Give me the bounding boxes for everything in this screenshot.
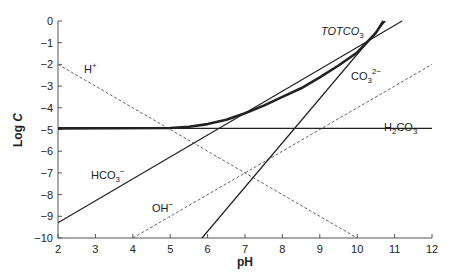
x-tick-label: 8: [279, 243, 285, 255]
label-totco3: TOTCO3: [321, 25, 364, 40]
x-ticks: 23456789101112: [55, 234, 438, 255]
y-tick-label: −5: [40, 124, 53, 136]
y-tick-label: −4: [40, 102, 53, 114]
y-axis-title: Log C: [11, 113, 25, 147]
x-tick-label: 10: [351, 243, 363, 255]
x-tick-label: 5: [167, 243, 173, 255]
x-axis-title: pH: [237, 255, 253, 269]
y-tick-label: −9: [40, 210, 53, 222]
y-tick-label: −1: [40, 37, 53, 49]
y-tick-label: −6: [40, 145, 53, 157]
y-tick-label: 0: [47, 15, 53, 27]
label-h2co3: H2CO3: [384, 121, 418, 136]
y-tick-label: −2: [40, 58, 53, 70]
label-h-plus: H+: [84, 61, 97, 75]
x-tick-label: 7: [242, 243, 248, 255]
label-hco3: HCO3−: [91, 167, 125, 184]
y-tick-label: −7: [40, 167, 53, 179]
y-tick-label: −8: [40, 189, 53, 201]
x-tick-label: 4: [130, 243, 136, 255]
x-tick-label: 11: [389, 243, 400, 255]
y-tick-label: −10: [34, 232, 53, 244]
log-c-ph-chart: 0−1−2−3−4−5−6−7−8−9−10 23456789101112 pH…: [0, 0, 452, 280]
x-tick-label: 2: [55, 243, 61, 255]
series-hco3-: [58, 21, 402, 223]
label-oh-minus: OH−: [152, 200, 174, 214]
x-tick-label: 3: [92, 243, 98, 255]
x-tick-label: 12: [426, 243, 438, 255]
series-oh-: [133, 64, 432, 238]
series-lines: [58, 21, 432, 238]
series-totco3: [58, 21, 383, 128]
x-tick-label: 9: [317, 243, 323, 255]
y-tick-label: −3: [40, 80, 53, 92]
label-co3: CO32−: [351, 67, 381, 85]
series-h-: [58, 64, 357, 238]
x-tick-label: 6: [205, 243, 211, 255]
